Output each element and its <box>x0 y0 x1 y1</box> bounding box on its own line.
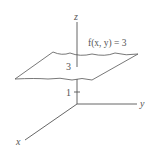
z-tick-1-label: 1 <box>66 87 71 98</box>
y-axis-label: y <box>139 98 145 109</box>
plane-equation-label: f(x, y) = 3 <box>88 38 127 49</box>
x-axis-label: x <box>15 136 21 147</box>
z-tick-3-label: 3 <box>66 61 71 72</box>
z-axis-label: z <box>73 11 78 22</box>
level-plane <box>15 52 138 80</box>
level-surface-diagram: z y x 1 3 f(x, y) = 3 <box>0 0 152 160</box>
x-axis <box>25 104 77 140</box>
